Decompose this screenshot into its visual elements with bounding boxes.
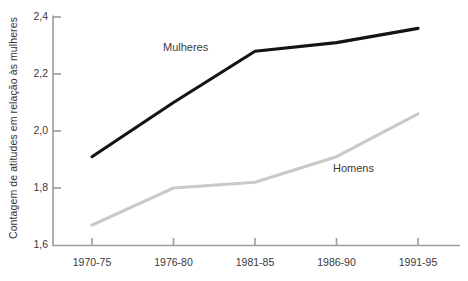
chart-plot-area (0, 0, 468, 281)
y-tick-label-1-8: 1,8 (26, 181, 48, 193)
y-tick-label-2-0: 2,0 (26, 124, 48, 136)
y-tick-label-2-2: 2,2 (26, 67, 48, 79)
x-tick-label-1970-75: 1970-75 (57, 256, 127, 268)
series-annotation-homens: Homens (333, 162, 374, 174)
x-axis-ticks (92, 238, 418, 245)
x-tick-label-1981-85: 1981-85 (220, 256, 290, 268)
y-tick-label-1-6: 1,6 (26, 238, 48, 250)
series-annotation-mulheres: Mulheres (163, 41, 208, 53)
chart-figure: Contagem de atitudes em relação às mulhe… (0, 0, 468, 281)
x-tick-label-1986-90: 1986-90 (302, 256, 372, 268)
series-line-mulheres (92, 28, 418, 156)
y-axis-ticks (53, 17, 61, 188)
x-tick-label-1991-95: 1991-95 (383, 256, 453, 268)
x-tick-label-1976-80: 1976-80 (139, 256, 209, 268)
y-tick-label-2-4: 2,4 (26, 10, 48, 22)
